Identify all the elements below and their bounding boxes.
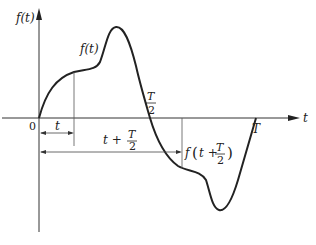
y-axis-arrow-icon xyxy=(36,8,42,20)
shifted-value-open: ( xyxy=(192,144,198,162)
shifted-value-den: 2 xyxy=(217,154,224,167)
curve-label: f(t) xyxy=(79,42,99,56)
half-period-den: 2 xyxy=(148,104,155,117)
arrow-left-icon xyxy=(40,150,46,154)
shifted-value-inner: t + xyxy=(199,146,218,160)
origin-label: 0 xyxy=(29,120,36,133)
shifted-value-num: T xyxy=(216,141,225,154)
half-wave-symmetry-diagram: f(t) t 0 f(t) T 2 T t t + T 2 f ( t + T … xyxy=(0,0,316,245)
x-axis-arrow-icon xyxy=(288,115,300,121)
arrow-right-icon xyxy=(68,131,74,135)
period-label: T xyxy=(252,122,261,136)
half-period-num: T xyxy=(147,90,156,103)
shifted-value-close: ) xyxy=(227,144,233,162)
waveform-curve xyxy=(39,27,256,210)
shifted-value-f: f xyxy=(184,146,192,160)
interval-shift-den: 2 xyxy=(129,140,136,153)
arrow-left-icon xyxy=(40,131,46,135)
x-axis-label: t xyxy=(303,111,308,125)
interval-shift-prefix: t + xyxy=(103,133,122,147)
y-axis-label: f(t) xyxy=(15,11,35,25)
interval-t-label: t xyxy=(55,119,60,133)
arrow-right-icon xyxy=(176,150,182,154)
